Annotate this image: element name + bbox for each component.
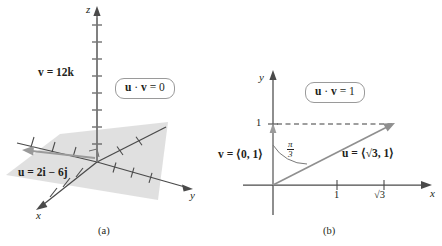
panel-b-2d-diagram: y x 1 1 √3 v = ⟨0, 1⟩ u = ⟨√3, 1⟩ π 3 u …	[221, 0, 442, 246]
z-axis-label: z	[86, 4, 90, 15]
x-axis-label-b: x	[430, 188, 435, 199]
angle-denominator: 3	[287, 149, 294, 159]
boxed-rhs-b: = 1	[340, 85, 355, 97]
dot-product-result-box-a: u · v = 0	[115, 78, 175, 99]
z-axis-arrowhead	[93, 6, 100, 16]
angle-label-pi-over-3: π 3	[287, 140, 294, 160]
x-tick-label-sqrt3: √3	[374, 190, 385, 201]
vector-v-label-text-b: v = ⟨0, 1⟩	[218, 148, 263, 160]
y-axis-label: y	[190, 190, 195, 201]
vector-u-label-b: u = ⟨√3, 1⟩	[342, 148, 394, 160]
y-axis-label-b: y	[259, 72, 264, 83]
boxed-v-symbol-a: v	[141, 81, 147, 93]
y-tick-label-1: 1	[256, 118, 261, 129]
panel-a-caption: (a)	[98, 226, 110, 237]
vector-u-label-text-b: u = ⟨√3, 1⟩	[342, 147, 394, 159]
boxed-u-symbol-b: u	[315, 85, 321, 97]
boxed-dot-symbol-a: ·	[134, 81, 138, 93]
panel-b-canvas	[221, 0, 442, 246]
figure-container: z y x v = 12k u = 2i − 6j u · v = 0 (a)	[0, 0, 442, 246]
vector-v-label-b: v = ⟨0, 1⟩	[218, 149, 263, 161]
x-tick-label-1: 1	[334, 190, 339, 201]
vector-v-label: v = 12k	[38, 67, 74, 79]
boxed-rhs-a: = 0	[150, 81, 165, 93]
y-axis-arrowhead-b	[269, 70, 276, 80]
panel-a-canvas	[0, 0, 221, 246]
angle-numerator: π	[287, 140, 294, 149]
panel-a-3d-diagram: z y x v = 12k u = 2i − 6j u · v = 0 (a)	[0, 0, 221, 246]
dot-product-result-box-b: u · v = 1	[305, 82, 365, 103]
vector-u-arrowhead	[22, 146, 34, 156]
boxed-u-symbol-a: u	[125, 81, 131, 93]
x-axis-label: x	[36, 210, 41, 221]
panel-b-caption: (b)	[323, 226, 335, 237]
boxed-v-symbol-b: v	[331, 85, 337, 97]
boxed-dot-symbol-b: ·	[324, 85, 328, 97]
vector-u-label: u = 2i − 6j	[18, 167, 68, 179]
xy-plane-shading	[6, 122, 168, 200]
